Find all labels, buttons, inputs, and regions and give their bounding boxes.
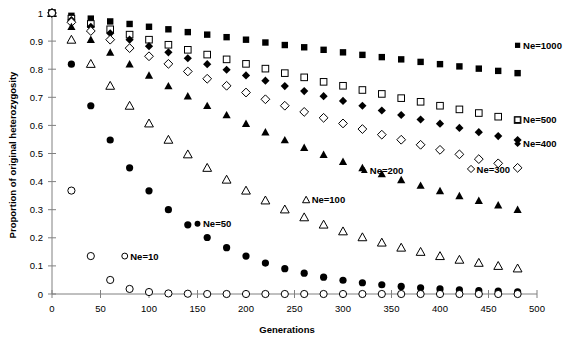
data-point [340,49,346,55]
series-label-text: Ne=200 [370,165,404,176]
data-point [146,24,152,30]
data-point [320,47,326,53]
data-point [185,29,191,35]
data-point [456,290,463,297]
data-point [359,290,366,297]
data-point [301,44,307,50]
series-label-text: Ne=1000 [523,40,562,51]
data-point [262,290,269,297]
series-label-text: Ne=100 [312,194,346,205]
y-tick-label: 0 [38,289,43,300]
data-point [359,87,366,94]
x-tick-label: 200 [238,303,254,314]
data-point [145,187,152,194]
data-point [107,276,114,283]
data-point [301,74,308,81]
y-tick-label: 0.9 [30,36,43,47]
data-point [436,290,443,297]
data-point [476,110,483,117]
data-point [262,259,269,266]
data-point [204,31,210,37]
data-point [48,9,55,16]
series-label-marker [515,117,520,122]
data-point [301,270,308,277]
y-axis-title: Proportion of original heterozygosity [7,71,18,239]
data-point [87,252,94,259]
y-tick-label: 0.5 [30,148,43,159]
series-label-marker [195,221,201,227]
data-point [417,59,423,65]
data-point [437,102,444,109]
data-point [378,281,385,288]
data-point [204,51,211,58]
data-point [398,95,405,102]
data-point [262,65,269,72]
series-label-text: Ne=10 [130,251,158,262]
data-point [475,290,482,297]
data-point [243,61,250,68]
data-point [514,70,520,76]
series-label-marker [122,253,128,259]
data-point [456,106,463,113]
x-tick-label: 400 [432,303,448,314]
data-point [495,68,501,74]
data-point [339,277,346,284]
data-point [379,54,385,60]
data-point [107,18,113,24]
y-tick-label: 1 [38,8,43,19]
data-point [242,290,249,297]
data-point [107,136,114,143]
data-point [320,79,327,86]
x-tick-label: 250 [287,303,303,314]
series-label-text: Ne=500 [523,114,557,125]
data-point [184,290,191,297]
data-point [398,56,404,62]
y-tick-label: 0.4 [30,176,43,187]
data-point [223,290,230,297]
x-tick-label: 150 [190,303,206,314]
data-point [68,187,75,194]
data-point [417,290,424,297]
data-point [378,290,385,297]
data-point [301,290,308,297]
x-axis-title: Generations [259,324,314,335]
data-point [320,274,327,281]
data-point [339,290,346,297]
data-point [185,47,192,54]
x-tick-label: 350 [384,303,400,314]
data-point [68,61,75,68]
series-label-text: Ne=300 [477,164,511,175]
data-point [126,164,133,171]
y-tick-label: 0.2 [30,232,43,243]
data-point [126,21,132,27]
data-point [476,65,482,71]
data-point [146,36,153,43]
data-point [282,70,289,77]
heterozygosity-decay-chart: 050100150200250300350400450500 00.10.20.… [0,0,575,348]
data-point [165,290,172,297]
x-tick-label: 500 [529,303,545,314]
data-point [456,63,462,69]
data-point [223,56,230,63]
x-tick-label: 300 [335,303,351,314]
x-tick-label: 450 [481,303,497,314]
data-point [87,102,94,109]
data-point [165,26,171,32]
data-point [243,36,249,42]
y-tick-label: 0.3 [30,204,43,215]
x-tick-label: 100 [141,303,157,314]
series-label-text: Ne=400 [523,138,557,149]
data-point [514,290,521,297]
data-point [204,290,211,297]
x-tick-label: 0 [49,303,54,314]
series-label-text: Ne=50 [203,218,231,229]
series-label-marker [515,43,520,48]
data-point [223,34,229,40]
data-point [165,41,172,48]
data-point [417,98,424,105]
data-point [398,283,405,290]
y-tick-label: 0.7 [30,92,43,103]
data-point [359,279,366,286]
data-point [262,39,268,45]
data-point [242,252,249,259]
